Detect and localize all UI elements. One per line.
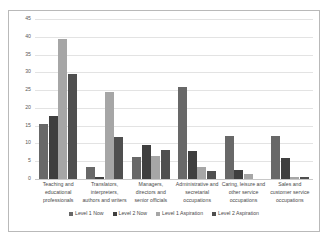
legend-swatch-icon	[69, 212, 73, 216]
x-axis-category-label: Managers, directors and senior officials	[128, 181, 174, 204]
y-axis-tick-label: 10	[25, 141, 31, 146]
y-axis-tick-label: 40	[25, 34, 31, 39]
bar[interactable]	[49, 116, 58, 179]
bar[interactable]	[178, 87, 187, 179]
bar[interactable]	[188, 151, 197, 179]
plot-area: 051015202530354045	[35, 19, 313, 179]
y-axis-tick-label: 20	[25, 105, 31, 110]
legend-swatch-icon	[212, 212, 216, 216]
y-axis-tick-label: 0	[28, 176, 31, 181]
legend-swatch-icon	[113, 212, 117, 216]
legend-swatch-icon	[156, 212, 160, 216]
bar[interactable]	[161, 150, 170, 179]
x-axis-category-label: Translators, interpreters, authors and w…	[81, 181, 127, 204]
bar-group	[267, 19, 313, 179]
chart-legend: Level 1 NowLevel 2 NowLevel 1 Aspiration…	[9, 211, 319, 216]
x-axis-category-labels: Teaching and educational professionalsTr…	[35, 181, 313, 204]
x-axis-category-label: Administrative and secretarial occupatio…	[174, 181, 220, 204]
y-axis-tick-label: 30	[25, 70, 31, 75]
bar[interactable]	[142, 145, 151, 179]
legend-label: Level 2 Aspiration	[218, 211, 259, 216]
bar[interactable]	[271, 136, 280, 179]
legend-item[interactable]: Level 2 Aspiration	[212, 211, 259, 216]
y-axis-tick-label: 45	[25, 16, 31, 21]
bar-group	[128, 19, 174, 179]
legend-label: Level 1 Now	[75, 211, 104, 216]
bar[interactable]	[86, 167, 95, 179]
bar[interactable]	[39, 124, 48, 179]
y-axis-tick-label: 25	[25, 88, 31, 93]
y-axis-tick-label: 15	[25, 123, 31, 128]
legend-item[interactable]: Level 1 Now	[69, 211, 104, 216]
legend-label: Level 1 Aspiration	[162, 211, 203, 216]
bar[interactable]	[244, 174, 253, 179]
bar[interactable]	[290, 177, 299, 179]
legend-label: Level 2 Now	[119, 211, 148, 216]
bar[interactable]	[281, 158, 290, 179]
y-axis-tick-label: 5	[28, 159, 31, 164]
bar-group	[35, 19, 81, 179]
bar-group	[220, 19, 266, 179]
bar[interactable]	[300, 177, 309, 179]
legend-item[interactable]: Level 2 Now	[113, 211, 148, 216]
bar[interactable]	[105, 92, 114, 179]
bar[interactable]	[197, 167, 206, 179]
x-axis-category-label: Teaching and educational professionals	[35, 181, 81, 204]
bar[interactable]	[132, 157, 141, 179]
bar[interactable]	[58, 39, 67, 179]
bar[interactable]	[95, 177, 104, 179]
bar-group	[174, 19, 220, 179]
x-axis-category-label: Sales and customer service occupations	[267, 181, 313, 204]
bar-group	[81, 19, 127, 179]
legend-item[interactable]: Level 1 Aspiration	[156, 211, 203, 216]
bar[interactable]	[234, 170, 243, 179]
x-axis-line	[35, 179, 313, 180]
bar[interactable]	[207, 171, 216, 179]
bar[interactable]	[68, 74, 77, 179]
bar-groups	[35, 19, 313, 179]
bar[interactable]	[114, 137, 123, 179]
x-axis-category-label: Caring, leisure and other service occupa…	[220, 181, 266, 204]
bar[interactable]	[225, 136, 234, 179]
chart-container: 051015202530354045 Teaching and educatio…	[8, 10, 320, 232]
bar[interactable]	[151, 156, 160, 179]
y-axis-tick-label: 35	[25, 52, 31, 57]
